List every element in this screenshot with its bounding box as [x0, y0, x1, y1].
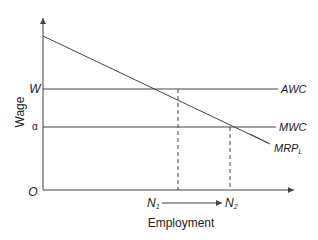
mwc-label: MWC: [279, 121, 307, 133]
y-axis-label: Wage: [13, 96, 27, 127]
awc-label: AWC: [280, 83, 307, 95]
x-axis-label: Employment: [148, 216, 215, 230]
wage-alpha-label: α: [32, 121, 38, 132]
origin-label: O: [28, 185, 37, 199]
mrp-label: MRPL: [274, 142, 302, 155]
n2-label: N2: [225, 196, 238, 210]
wage-w-label: W: [29, 82, 42, 96]
monopsony-diagram: Wage Employment O W α AWC MWC MRPL N1 N2: [0, 0, 318, 240]
mrp-label-leader: [250, 134, 270, 144]
n1-label: N1: [147, 196, 160, 210]
